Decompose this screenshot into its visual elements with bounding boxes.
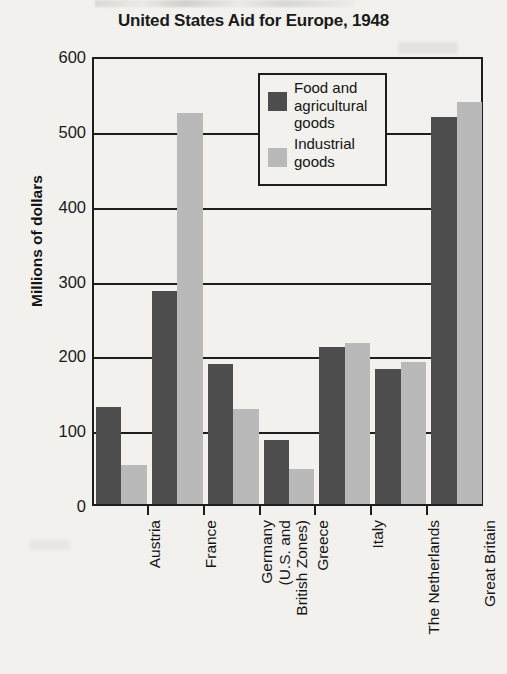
bar bbox=[121, 465, 146, 504]
scan-artifact-right bbox=[398, 42, 458, 54]
bar bbox=[177, 113, 202, 504]
y-tick-label: 100 bbox=[36, 422, 86, 441]
bar bbox=[264, 440, 289, 504]
y-tick-label: 500 bbox=[36, 122, 86, 141]
y-tick-label: 600 bbox=[36, 48, 86, 67]
scan-artifact-top bbox=[95, 0, 355, 7]
bar bbox=[289, 469, 314, 504]
bar-group bbox=[94, 59, 150, 504]
bar bbox=[152, 291, 177, 504]
y-tick-label: 0 bbox=[36, 497, 86, 516]
bar bbox=[431, 117, 456, 504]
legend-swatch bbox=[268, 148, 287, 167]
x-category-label: France bbox=[202, 520, 220, 670]
x-category-label: The Netherlands bbox=[425, 520, 443, 670]
y-axis-tick-labels: 0100200300400500600 bbox=[32, 57, 86, 506]
x-tick bbox=[203, 506, 205, 515]
legend-label: Industrial goods bbox=[294, 135, 355, 170]
x-category-label: Greece bbox=[314, 520, 332, 670]
y-tick-label: 300 bbox=[36, 272, 86, 291]
chart-title: United States Aid for Europe, 1948 bbox=[0, 11, 507, 31]
bar bbox=[208, 364, 233, 504]
legend-entry: Industrial goods bbox=[268, 135, 355, 170]
bar bbox=[233, 409, 258, 504]
x-tick bbox=[426, 506, 428, 515]
y-tick-label: 200 bbox=[36, 347, 86, 366]
bar-group bbox=[206, 59, 262, 504]
x-tick bbox=[370, 506, 372, 515]
x-category-label: Austria bbox=[146, 520, 164, 670]
bar-group bbox=[150, 59, 206, 504]
x-category-label: Great Britain bbox=[481, 520, 499, 670]
bar bbox=[345, 343, 370, 504]
bar bbox=[457, 102, 482, 504]
bar bbox=[96, 407, 121, 504]
bar bbox=[319, 347, 344, 504]
bar bbox=[375, 369, 400, 504]
x-category-label: Italy bbox=[369, 520, 387, 670]
x-category-label: Germany (U.S. and British Zones) bbox=[258, 520, 311, 670]
scan-artifact-middle bbox=[30, 540, 70, 550]
x-tick bbox=[314, 506, 316, 515]
x-tick bbox=[147, 506, 149, 515]
legend-label: Food and agricultural goods bbox=[294, 79, 367, 132]
bar-group bbox=[429, 59, 485, 504]
bar bbox=[401, 362, 426, 504]
chart-legend: Food and agricultural goodsIndustrial go… bbox=[258, 73, 387, 186]
y-tick-label: 400 bbox=[36, 197, 86, 216]
legend-swatch bbox=[268, 92, 287, 111]
x-tick bbox=[259, 506, 261, 515]
legend-entry: Food and agricultural goods bbox=[268, 79, 367, 132]
